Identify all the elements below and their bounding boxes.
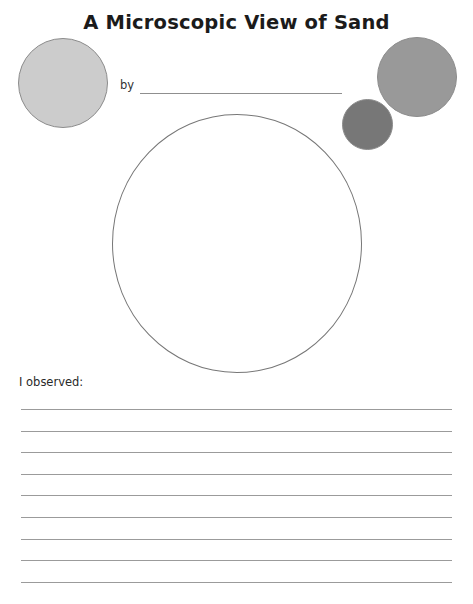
- writing-line[interactable]: [21, 582, 452, 583]
- writing-line[interactable]: [21, 517, 452, 518]
- writing-line[interactable]: [21, 431, 452, 432]
- observation-drawing-circle[interactable]: [112, 114, 362, 373]
- writing-line[interactable]: [21, 495, 452, 496]
- writing-line[interactable]: [21, 474, 452, 475]
- byline: by: [120, 80, 342, 94]
- sand-grain-top-right-large-icon: [377, 37, 457, 117]
- sand-grain-top-right-small-icon: [342, 99, 393, 150]
- writing-lines: [21, 409, 452, 583]
- page-title: A Microscopic View of Sand: [0, 11, 473, 34]
- writing-line[interactable]: [21, 539, 452, 540]
- sand-grain-top-left-icon: [18, 38, 108, 128]
- writing-line[interactable]: [21, 560, 452, 561]
- observed-prompt-label: I observed:: [19, 375, 83, 389]
- worksheet-page: A Microscopic View of Sand by I observed…: [0, 0, 473, 604]
- writing-line[interactable]: [21, 452, 452, 453]
- byline-label: by: [120, 80, 134, 94]
- byline-input-rule[interactable]: [140, 93, 342, 94]
- writing-line[interactable]: [21, 409, 452, 410]
